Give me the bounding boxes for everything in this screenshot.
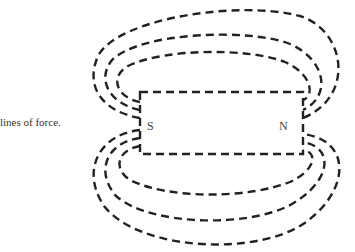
field-line-lower-outer: [94, 130, 340, 244]
field-line-upper-inner: [117, 52, 310, 102]
south-pole-label: S: [147, 119, 154, 133]
field-line-lower-middle: [105, 138, 324, 220]
field-line-upper-middle: [105, 35, 321, 110]
magnet-diagram: S N: [0, 0, 355, 252]
north-pole-label: N: [279, 119, 288, 133]
